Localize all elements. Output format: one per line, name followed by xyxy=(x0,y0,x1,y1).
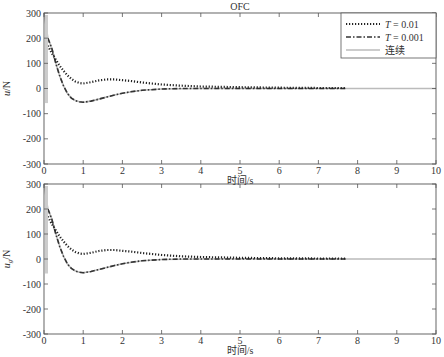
figure: OFC 012345678910-300-200-1000100200300时间… xyxy=(0,0,444,357)
transient-band xyxy=(45,186,48,274)
legend-label: T = 0.001 xyxy=(385,32,424,43)
y-tick-label: 0 xyxy=(36,254,41,265)
y-tick-label: 100 xyxy=(26,58,41,69)
x-tick-label: 8 xyxy=(355,165,360,176)
x-tick-label: 8 xyxy=(355,335,360,346)
legend: T = 0.01T = 0.001连续 xyxy=(341,13,436,58)
x-tick-label: 0 xyxy=(42,165,47,176)
x-tick-label: 1 xyxy=(81,335,86,346)
y-tick-label: -100 xyxy=(23,108,41,119)
plot-2: 012345678910-300-200-1000100200300时间/sug… xyxy=(1,179,441,357)
x-tick-label: 4 xyxy=(198,165,203,176)
y-tick-label: 0 xyxy=(36,83,41,94)
x-tick-label: 3 xyxy=(159,335,164,346)
y-tick-label: -200 xyxy=(23,133,41,144)
x-tick-label: 10 xyxy=(431,165,441,176)
y-tick-label: -300 xyxy=(23,159,41,170)
x-tick-label: 2 xyxy=(120,165,125,176)
transient-band xyxy=(45,15,48,103)
x-axis-label: 时间/s xyxy=(227,344,254,356)
y-tick-label: 300 xyxy=(26,179,41,190)
x-tick-label: 4 xyxy=(198,335,203,346)
x-tick-label: 6 xyxy=(277,335,282,346)
x-tick-label: 9 xyxy=(394,335,399,346)
y-tick-label: 200 xyxy=(26,33,41,44)
y-tick-label: 100 xyxy=(26,229,41,240)
x-tick-label: 7 xyxy=(316,165,321,176)
x-tick-label: 3 xyxy=(159,165,164,176)
legend-label: 连续 xyxy=(385,44,405,56)
x-tick-label: 1 xyxy=(81,165,86,176)
y-axis-label: u/N xyxy=(1,81,12,96)
x-tick-label: 10 xyxy=(431,335,441,346)
y-axis-label: ug/N xyxy=(1,250,14,269)
x-tick-label: 7 xyxy=(316,335,321,346)
x-tick-label: 0 xyxy=(42,335,47,346)
y-tick-label: -200 xyxy=(23,304,41,315)
legend-label: T = 0.01 xyxy=(385,19,419,30)
x-tick-label: 2 xyxy=(120,335,125,346)
x-tick-label: 6 xyxy=(277,165,282,176)
x-tick-label: 9 xyxy=(394,165,399,176)
series-line xyxy=(48,217,346,259)
y-tick-label: 200 xyxy=(26,204,41,215)
y-tick-label: -300 xyxy=(23,329,41,340)
y-tick-label: 300 xyxy=(26,8,41,19)
series-line xyxy=(48,38,346,102)
series-line xyxy=(48,46,346,88)
series-line xyxy=(48,209,346,273)
figure-title: OFC xyxy=(230,1,250,12)
y-tick-label: -100 xyxy=(23,279,41,290)
